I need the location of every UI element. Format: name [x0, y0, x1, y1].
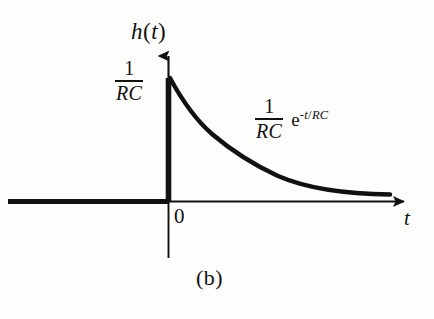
amplitude-denominator: RC: [114, 82, 144, 104]
impulse-response-figure: h(t) 1 RC 1 RC e-t/RC 0 t (b): [0, 0, 434, 319]
equation-base: e: [291, 109, 299, 130]
y-axis-label-close-paren: ): [158, 19, 166, 44]
equation-exponent: -t/RC: [300, 108, 329, 122]
equation-denominator: RC: [254, 120, 284, 142]
equation-exponential: e-t/RC: [291, 109, 328, 129]
y-axis-label-open-paren: (: [143, 19, 151, 44]
equation-numerator: 1: [254, 96, 284, 118]
amplitude-numerator: 1: [114, 58, 144, 80]
y-axis-label: h(t): [131, 20, 166, 43]
amplitude-label: 1 RC: [114, 58, 144, 104]
curve-equation-label: 1 RC e-t/RC: [254, 96, 329, 142]
y-axis-label-function: h: [131, 19, 143, 44]
figure-caption: (b): [196, 267, 223, 289]
amplitude-fraction: 1 RC: [114, 58, 144, 104]
origin-label: 0: [174, 206, 185, 227]
exponent-denominator: RC: [312, 108, 329, 122]
equation-fraction: 1 RC: [254, 96, 284, 142]
x-axis-label: t: [404, 208, 410, 229]
